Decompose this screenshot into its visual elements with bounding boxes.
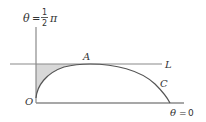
point-A-label: A xyxy=(82,51,90,62)
equals-sign: = xyxy=(179,108,187,118)
polar-curve-diagram: θ = 1 2 π A L C O θ = 0 xyxy=(0,0,206,122)
line-L-label: L xyxy=(164,59,172,70)
equals-sign: = xyxy=(32,13,40,24)
theta-zero-label: θ = 0 xyxy=(170,107,194,118)
theta-symbol: θ xyxy=(23,12,30,25)
theta-half-pi-label: θ = 1 2 π xyxy=(23,8,58,28)
pi-symbol: π xyxy=(49,12,58,25)
fraction-numerator: 1 xyxy=(42,8,47,17)
theta-symbol: θ xyxy=(170,107,176,118)
fraction-denominator: 2 xyxy=(42,19,47,28)
zero-value: 0 xyxy=(188,108,194,118)
shaded-region xyxy=(36,64,88,98)
origin-O-label: O xyxy=(25,96,33,107)
curve-C-label: C xyxy=(160,78,168,89)
curve-C xyxy=(36,64,170,103)
